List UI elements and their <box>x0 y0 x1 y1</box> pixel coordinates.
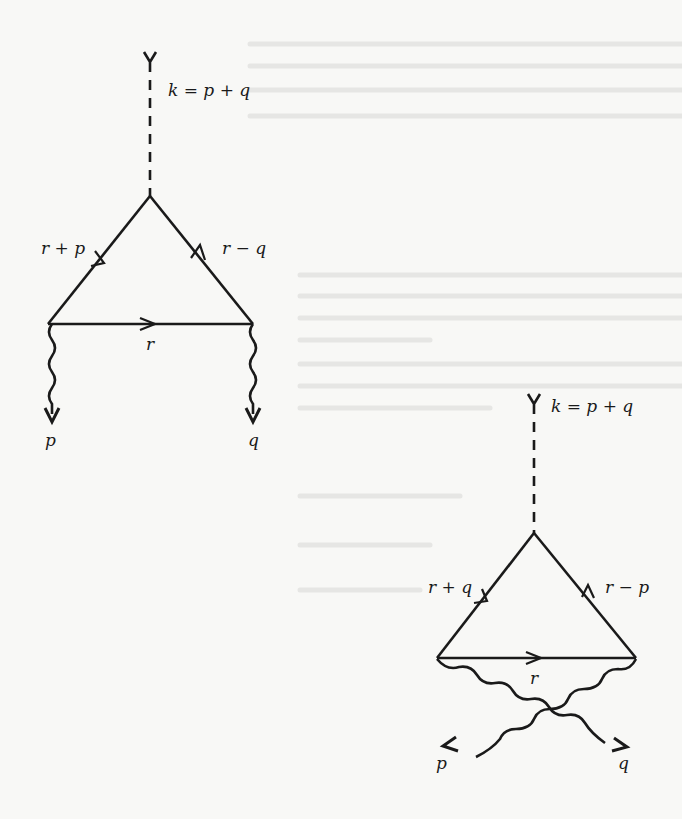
feynman-diagram-page: k = p + q r + p r − q r p q k = p + q r … <box>0 0 682 819</box>
photon-line-q <box>250 324 256 414</box>
external-vertex-fork <box>528 394 540 414</box>
arrowhead-p-icon <box>443 737 458 751</box>
external-vertex-fork <box>144 52 156 72</box>
photon-line-q-crossed <box>437 659 605 743</box>
label-p-direct: p <box>45 430 56 450</box>
bleed-through-text <box>250 44 682 590</box>
fermion-line-left <box>48 196 150 324</box>
label-bottom-crossed: r <box>530 668 539 688</box>
diagram-direct <box>45 52 260 422</box>
photon-line-p <box>49 324 55 414</box>
diagram-svg: k = p + q r + p r − q r p q k = p + q r … <box>0 0 682 819</box>
arrow-right-icon <box>191 245 205 260</box>
label-left-crossed: r + q <box>428 577 472 597</box>
fermion-line-right <box>150 196 253 324</box>
label-left-direct: r + p <box>41 238 85 258</box>
label-k-crossed: k = p + q <box>551 396 633 416</box>
arrowhead-q-icon <box>612 738 627 751</box>
label-right-direct: r − q <box>222 238 266 258</box>
label-bottom-direct: r <box>146 334 155 354</box>
label-q-direct: q <box>248 430 259 450</box>
arrow-left-icon <box>474 589 487 603</box>
diagram-crossed <box>437 394 636 757</box>
label-k-direct: k = p + q <box>168 80 250 100</box>
label-p-crossed: p <box>436 753 447 773</box>
label-q-crossed: q <box>618 753 629 773</box>
label-right-crossed: r − p <box>605 577 649 597</box>
photon-line-p-crossed <box>476 659 636 757</box>
arrow-left-icon <box>91 251 104 266</box>
